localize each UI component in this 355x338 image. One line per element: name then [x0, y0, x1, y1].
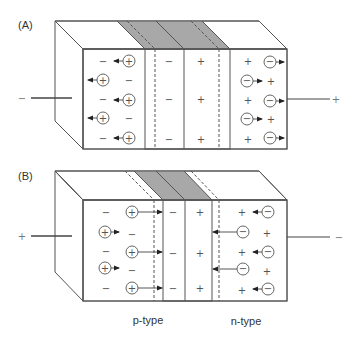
svg-text:+: + [125, 95, 133, 106]
panel-b-left-terminal: + [18, 231, 72, 242]
hole-carrier: + [114, 132, 135, 144]
svg-text:+: + [196, 207, 204, 218]
svg-text:+: + [244, 134, 252, 145]
electron-carrier: − [253, 283, 274, 296]
hole-carrier: + [88, 112, 109, 124]
electron-carrier: − [241, 75, 262, 88]
svg-text:+: + [99, 113, 107, 124]
svg-text:+: + [196, 283, 204, 294]
svg-text:−: − [125, 113, 133, 124]
svg-text:−: − [128, 229, 136, 240]
svg-text:+: + [238, 285, 246, 296]
panel-b: (B) − − − + + [18, 170, 343, 327]
p-type-label: p-type [133, 314, 164, 326]
svg-text:+: + [267, 114, 275, 125]
svg-text:−: − [266, 56, 274, 67]
svg-text:+: + [128, 207, 136, 218]
svg-text:+: + [244, 95, 252, 106]
svg-text:−: − [165, 134, 173, 145]
svg-text:+: + [263, 228, 271, 239]
electron-carrier: − [213, 226, 249, 239]
svg-text:−: − [125, 75, 133, 86]
hole-carrier: + [126, 246, 162, 258]
svg-text:+: + [197, 134, 205, 145]
panel-b-front-face [83, 200, 287, 301]
svg-text:+: + [238, 247, 246, 258]
hole-carrier: + [126, 282, 162, 294]
panel-a-depletion-region [145, 49, 230, 149]
svg-text:−: − [266, 95, 274, 106]
svg-text:−: − [128, 265, 136, 276]
svg-text:−: − [169, 283, 177, 294]
svg-text:+: + [197, 94, 205, 105]
svg-text:+: + [332, 94, 340, 105]
svg-text:−: − [264, 246, 272, 257]
svg-text:+: + [267, 76, 275, 87]
panel-b-depletion-charges: − − − + + + [169, 207, 204, 294]
n-type-label: n-type [231, 315, 262, 327]
svg-text:+: + [244, 56, 252, 67]
panel-a-left-terminal: − [18, 93, 72, 104]
svg-text:+: + [263, 266, 271, 277]
electron-carrier: − [213, 263, 249, 276]
pn-junction-diagram: (A) − − − + [0, 0, 355, 338]
electron-carrier: − [253, 206, 274, 219]
svg-text:−: − [243, 75, 251, 86]
svg-text:+: + [101, 227, 109, 238]
panel-b-label: (B) [18, 170, 33, 182]
panel-a-n-region: + + + + + − − − − [241, 56, 284, 145]
hole-carrier: + [126, 206, 162, 218]
svg-text:−: − [243, 113, 251, 124]
electron-carrier: − [241, 113, 262, 126]
svg-text:−: − [102, 246, 110, 257]
svg-text:+: + [18, 231, 26, 242]
hole-carrier: + [99, 262, 119, 274]
svg-text:−: − [239, 226, 247, 237]
hole-carrier: + [88, 74, 109, 86]
svg-text:+: + [125, 133, 133, 144]
svg-text:−: − [165, 56, 173, 67]
panel-a-front-face [83, 49, 287, 149]
panel-a-label: (A) [18, 19, 33, 31]
svg-text:−: − [99, 56, 107, 67]
svg-text:+: + [128, 283, 136, 294]
svg-text:−: − [266, 132, 274, 143]
electron-carrier: − [264, 132, 284, 145]
panel-a-p-region: − − − − − + + + + [88, 55, 135, 144]
panel-a-top-face [55, 21, 287, 49]
svg-text:−: − [165, 94, 173, 105]
panel-a-depletion-charges: − − − + + + [165, 56, 205, 145]
electron-carrier: − [264, 95, 284, 108]
svg-text:+: + [101, 263, 109, 274]
svg-text:−: − [169, 248, 177, 259]
electron-carrier: − [264, 56, 284, 69]
hole-carrier: + [99, 226, 119, 238]
svg-text:+: + [125, 56, 133, 67]
svg-text:−: − [264, 283, 272, 294]
svg-text:−: − [335, 232, 343, 243]
svg-text:−: − [99, 94, 107, 105]
hole-carrier: + [114, 55, 135, 67]
electron-carrier: − [253, 246, 274, 259]
panel-b-top-face [55, 171, 287, 200]
panel-b-p-region: − − − − − + + + + [99, 206, 162, 294]
svg-text:−: − [102, 207, 110, 218]
panel-a-right-terminal: + [287, 94, 340, 105]
svg-text:−: − [239, 263, 247, 274]
svg-text:−: − [102, 283, 110, 294]
svg-text:+: + [128, 247, 136, 258]
svg-text:+: + [238, 207, 246, 218]
panel-b-right-terminal: − [287, 232, 343, 243]
svg-text:−: − [169, 207, 177, 218]
hole-carrier: + [114, 94, 135, 106]
svg-text:−: − [99, 133, 107, 144]
svg-text:−: − [18, 93, 26, 104]
panel-b-n-region: + + + + + − − − − [213, 206, 274, 296]
svg-text:−: − [264, 206, 272, 217]
svg-text:+: + [197, 56, 205, 67]
panel-a: (A) − − − + [18, 19, 340, 149]
svg-text:+: + [196, 248, 204, 259]
svg-text:+: + [99, 75, 107, 86]
panel-a-left-face [55, 21, 83, 149]
